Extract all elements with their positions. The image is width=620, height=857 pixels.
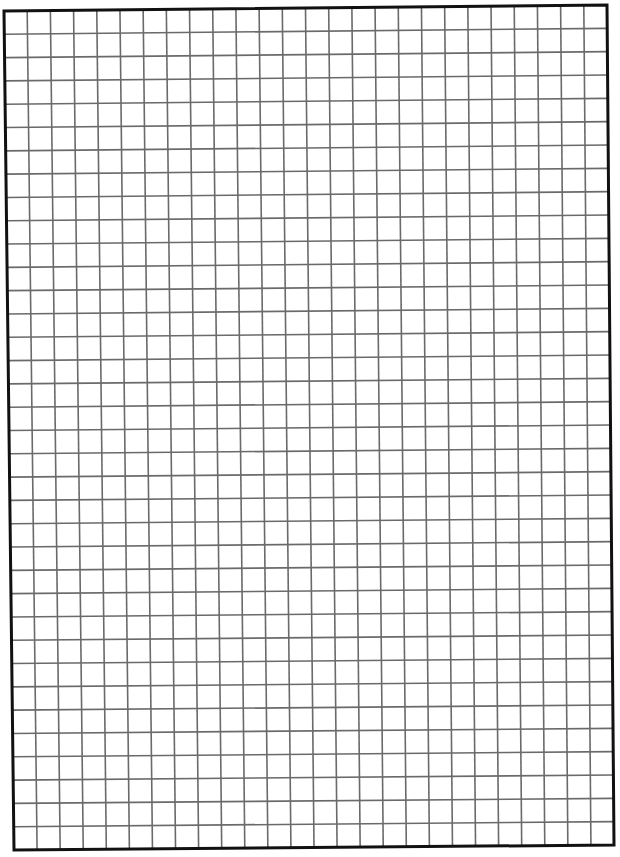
grid-paper-sheet [0,0,620,857]
